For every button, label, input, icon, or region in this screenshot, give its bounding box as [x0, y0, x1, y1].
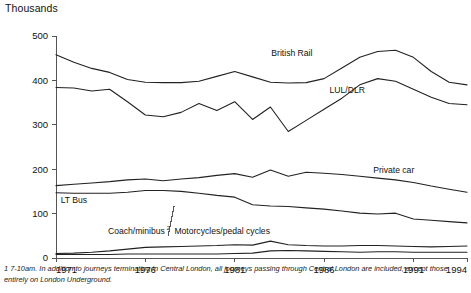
series-label-text: LUL/DLR — [330, 85, 365, 95]
series-line-lt-bus — [56, 191, 467, 223]
series-label-lt-bus: LT Bus — [61, 195, 87, 205]
series-label-lul-dlr: LUL/DLR — [330, 85, 365, 95]
footnote-text: 7-10am. In addition to journeys terminat… — [4, 264, 448, 284]
series-label-leader — [168, 206, 174, 236]
y-tick-label: 300 — [32, 119, 48, 130]
series-label-text: Motorcycles/pedal cycles — [174, 226, 270, 236]
series-line-motorcycles-pedal-cycles — [56, 250, 467, 254]
series-label-british-rail: British Rail — [271, 48, 312, 58]
series-label-text: LT Bus — [61, 195, 87, 205]
series-labels-group: British RailLUL/DLRPrivate carLT BusCoac… — [61, 48, 415, 236]
series-line-lul-dlr — [56, 79, 467, 132]
series-label-motorcycles-pedal-cycles: Motorcycles/pedal cycles — [174, 226, 270, 236]
chart-container: Thousands 0100200300400500 1971197619811… — [0, 0, 471, 293]
y-tick-label: 100 — [32, 208, 48, 219]
series-label-private-car: Private car — [373, 165, 414, 175]
y-axis: 0100200300400500 — [32, 30, 56, 263]
series-label-text: Private car — [373, 165, 414, 175]
series-label-coach-minibus: Coach/minibus2 — [108, 206, 174, 236]
series-label-text: Coach/minibus — [108, 226, 165, 236]
footnote-marker: 1 — [4, 264, 8, 273]
series-line-british-rail — [56, 50, 467, 85]
y-tick-label: 500 — [32, 30, 48, 41]
line-chart-plot: 0100200300400500 19711976198119861991199… — [0, 0, 471, 293]
y-tick-label: 0 — [43, 252, 48, 263]
chart-footnote: 1 7-10am. In addition to journeys termin… — [4, 264, 466, 285]
y-tick-label: 200 — [32, 164, 48, 175]
data-series-group — [56, 50, 467, 254]
series-label-text: British Rail — [271, 48, 312, 58]
y-tick-label: 400 — [32, 75, 48, 86]
